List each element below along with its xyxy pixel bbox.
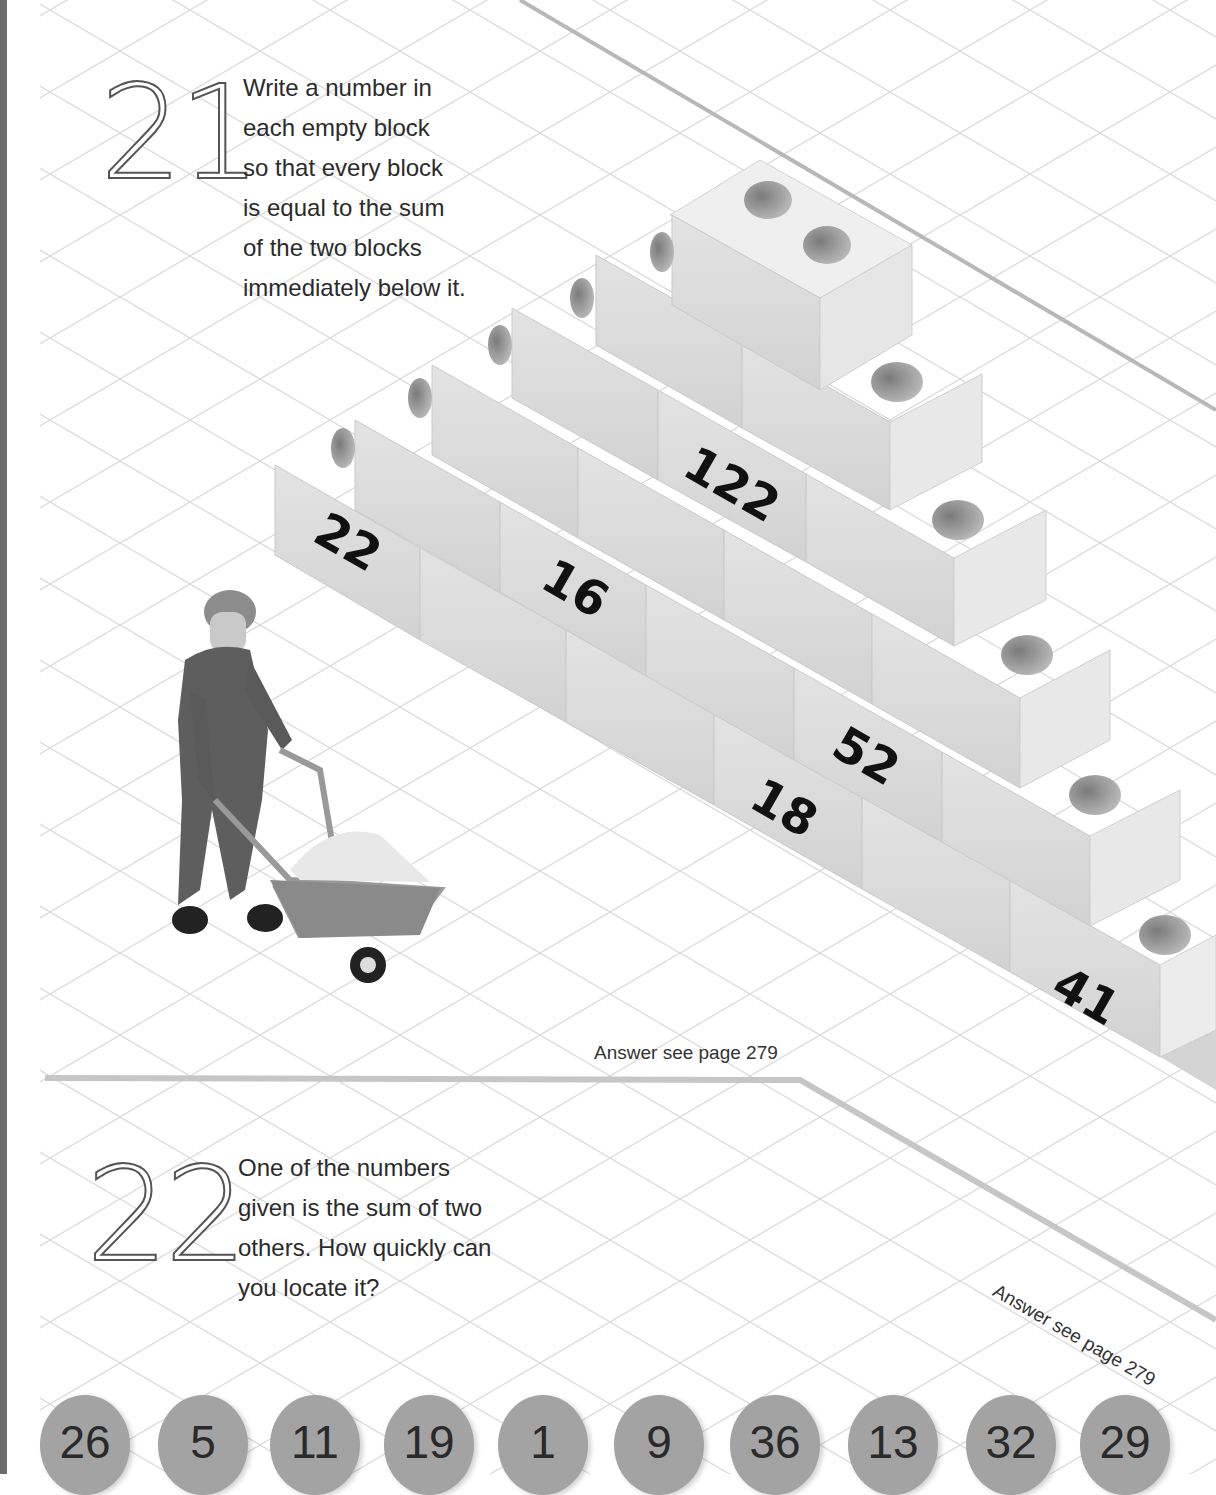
number-circle: 29 (1080, 1395, 1170, 1495)
number-circles-row: 26 5 11 19 1 9 36 13 32 29 (0, 1395, 1216, 1475)
number-circle: 1 (498, 1395, 588, 1495)
instruction-line: you locate it? (238, 1268, 491, 1308)
puzzle-21-answer-reference: Answer see page 279 (594, 1042, 778, 1064)
instruction-line: each empty block (243, 108, 466, 148)
number-circle: 13 (848, 1395, 938, 1495)
instruction-line: is equal to the sum (243, 188, 466, 228)
instruction-line: Write a number in (243, 68, 466, 108)
puzzle-21-instructions: Write a number in each empty block so th… (243, 68, 466, 308)
number-circle: 11 (270, 1395, 360, 1495)
instruction-line: given is the sum of two (238, 1188, 491, 1228)
number-circle: 5 (158, 1395, 248, 1495)
instruction-line: One of the numbers (238, 1148, 491, 1188)
instruction-line: immediately below it. (243, 268, 466, 308)
puzzle-number-22: 22 (86, 1150, 243, 1280)
puzzle-number-21: 21 (100, 68, 257, 198)
instruction-line: of the two blocks (243, 228, 466, 268)
number-circle: 26 (40, 1395, 130, 1495)
instruction-line: others. How quickly can (238, 1228, 491, 1268)
number-circle: 36 (730, 1395, 820, 1495)
puzzle-22-instructions: One of the numbers given is the sum of t… (238, 1148, 491, 1308)
number-circle: 9 (614, 1395, 704, 1495)
number-circle: 32 (966, 1395, 1056, 1495)
number-circle: 19 (384, 1395, 474, 1495)
instruction-line: so that every block (243, 148, 466, 188)
